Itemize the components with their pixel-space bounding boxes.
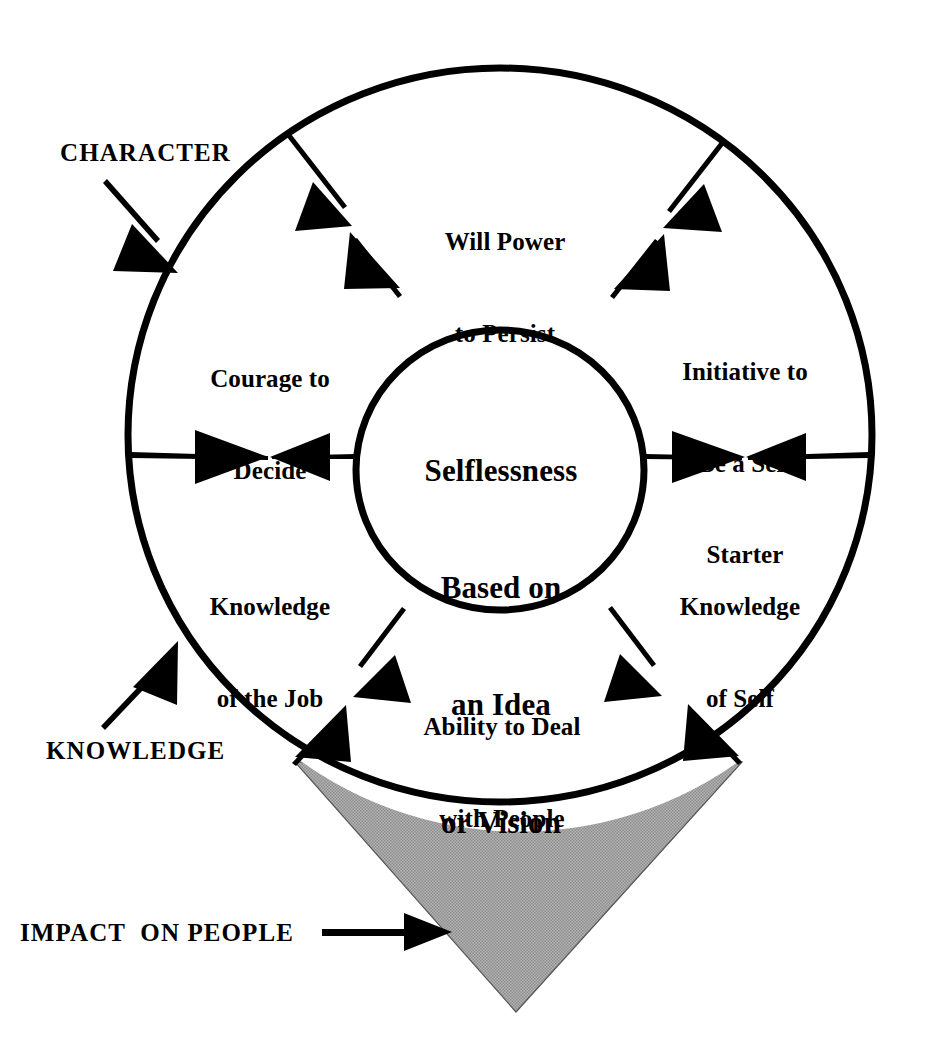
label-impact-on-people: IMPACT ON PEOPLE [20,918,294,949]
petal-ability: Ability to Deal with People [382,651,622,895]
petal-knowledge-of-self-line1: Knowledge [640,592,840,623]
petal-courage: Courage to Decide [170,303,370,547]
petal-knowledge-of-job-line2: of the Job [160,684,380,715]
label-knowledge: KNOWLEDGE [46,736,225,767]
petal-knowledge-of-self-line2: of Self [640,684,840,715]
petal-initiative-line2: Be a Self [645,449,845,480]
connector-upper-left [287,134,402,298]
petal-ability-line1: Ability to Deal [382,712,622,743]
connector-upper-right [610,138,727,299]
petal-courage-line1: Courage to [170,364,370,395]
center-line-2: Based on [370,568,632,607]
label-character: CHARACTER [60,138,231,169]
petal-will-power: Will Power to Persist [390,166,620,410]
character-arrow-icon [103,179,178,273]
diagram-canvas: Selflessness Based on an Idea or Vision … [0,0,925,1058]
petal-will-power-line2: to Persist [390,319,620,350]
petal-knowledge-of-self: Knowledge of Self [640,531,840,775]
petal-courage-line2: Decide [170,456,370,487]
petal-will-power-line1: Will Power [390,227,620,258]
petal-initiative-line1: Initiative to [645,357,845,388]
petal-knowledge-of-job-line1: Knowledge [160,592,380,623]
center-line-1: Selflessness [370,451,632,490]
petal-ability-line2: with People [382,804,622,835]
